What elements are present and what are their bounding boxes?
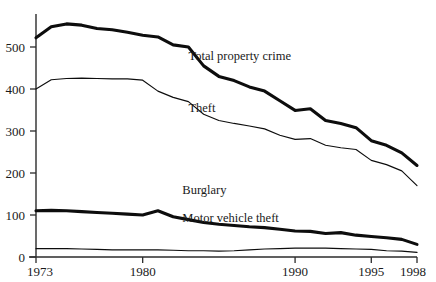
- x-tick-label-1990: 1990: [282, 264, 308, 279]
- y-tick-label-200: 200: [6, 166, 26, 181]
- series-label-theft: Theft: [188, 101, 216, 115]
- series-label-group: Total property crimeTheftBurglaryMotor v…: [182, 49, 291, 226]
- y-axis-tick-group: 0100200300400500: [6, 40, 37, 265]
- x-tick-label-1995: 1995: [358, 264, 384, 279]
- y-tick-label-400: 400: [6, 82, 26, 97]
- series-label-motor-vehicle-theft: Motor vehicle theft: [182, 211, 279, 225]
- chart-container: 0100200300400500 19731980199019951998 To…: [0, 0, 436, 282]
- line-chart: 0100200300400500 19731980199019951998 To…: [0, 0, 436, 282]
- x-tick-label-1980: 1980: [130, 264, 156, 279]
- x-axis-tick-group: 19731980199019951998: [27, 257, 426, 279]
- series-label-total-property-crime: Total property crime: [188, 49, 291, 63]
- x-tick-label-1973: 1973: [27, 264, 53, 279]
- y-tick-label-500: 500: [6, 40, 26, 55]
- series-line-total-property-crime: [36, 24, 417, 166]
- x-tick-label-1998: 1998: [400, 264, 426, 279]
- series-line-motor-vehicle-theft: [36, 248, 417, 252]
- series-label-burglary: Burglary: [182, 183, 227, 197]
- y-tick-label-0: 0: [19, 250, 26, 265]
- y-tick-label-300: 300: [6, 124, 26, 139]
- y-tick-label-100: 100: [6, 208, 26, 223]
